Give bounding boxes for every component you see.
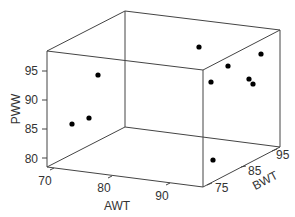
y-tick-label: 95 <box>276 148 290 162</box>
x-tick-label: 80 <box>97 181 111 195</box>
data-point <box>208 79 213 84</box>
data-point <box>225 63 230 68</box>
scatter-3d-chart: 95 90 85 80 PWW 70 80 90 AWT 75 85 95 BW… <box>0 0 295 217</box>
data-point <box>210 157 215 162</box>
x-tick-label: 90 <box>155 189 169 203</box>
data-point <box>86 115 91 120</box>
z-axis-label: PWW <box>9 93 23 124</box>
data-point <box>196 44 201 49</box>
z-tick-label: 95 <box>25 64 39 78</box>
z-tick-label: 80 <box>25 152 39 166</box>
x-axis-label: AWT <box>104 199 131 213</box>
bounding-box <box>47 11 280 187</box>
data-point <box>258 51 263 56</box>
z-tick-label: 90 <box>25 93 39 107</box>
z-axis <box>42 71 47 158</box>
data-point <box>246 76 251 81</box>
data-points <box>69 44 263 162</box>
x-tick-label: 70 <box>38 174 52 188</box>
data-point <box>250 81 255 86</box>
data-point <box>69 121 74 126</box>
z-tick-label: 85 <box>25 122 39 136</box>
y-tick-label: 75 <box>215 181 229 195</box>
data-point <box>95 72 100 77</box>
